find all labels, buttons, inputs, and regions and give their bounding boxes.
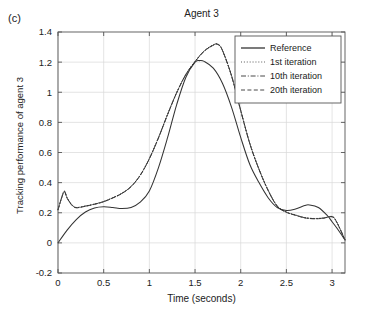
legend-label: 10th iteration bbox=[270, 71, 322, 81]
legend-label: 1st iteration bbox=[270, 57, 317, 67]
x-tick-label: 3 bbox=[329, 277, 334, 288]
chart-legend: Reference1st iteration10th iteration20th… bbox=[235, 36, 341, 103]
legend-label: 20th iteration bbox=[270, 85, 322, 95]
x-tick-label: 2 bbox=[238, 277, 243, 288]
legend-label: Reference bbox=[270, 43, 312, 53]
y-tick-label: 0.8 bbox=[39, 117, 52, 128]
panel-label: (c) bbox=[8, 12, 21, 24]
plot-area: 00.511.522.53-0.200.20.40.60.811.21.4 Re… bbox=[0, 0, 366, 322]
x-tick-label: 1 bbox=[147, 277, 152, 288]
figure-panel: (c) Agent 3 Tracking performance of agen… bbox=[0, 0, 366, 322]
y-tick-label: 0.2 bbox=[39, 207, 52, 218]
y-tick-label: -0.2 bbox=[36, 267, 52, 278]
x-tick-label: 0 bbox=[55, 277, 60, 288]
x-tick-label: 0.5 bbox=[97, 277, 110, 288]
y-tick-label: 1.4 bbox=[39, 26, 52, 37]
y-tick-label: 1 bbox=[47, 87, 52, 98]
y-tick-label: 0 bbox=[47, 237, 52, 248]
y-tick-label: 0.4 bbox=[39, 177, 52, 188]
x-tick-label: 2.5 bbox=[280, 277, 293, 288]
x-tick-label: 1.5 bbox=[188, 277, 201, 288]
y-axis-label: Tracking performance of agent 3 bbox=[14, 41, 25, 251]
y-tick-label: 0.6 bbox=[39, 147, 52, 158]
chart-title: Agent 3 bbox=[58, 8, 345, 19]
x-axis-label: Time (seconds) bbox=[58, 293, 345, 304]
y-tick-label: 1.2 bbox=[39, 57, 52, 68]
